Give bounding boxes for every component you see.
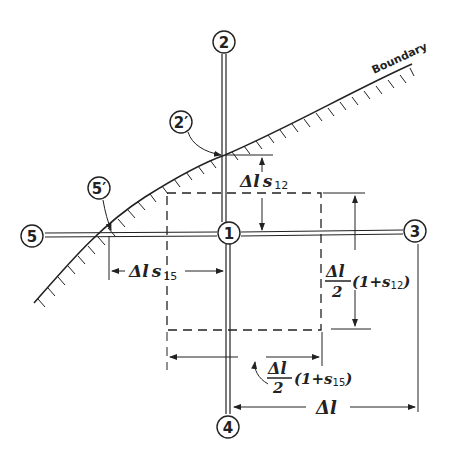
svg-text:Δl: Δl bbox=[325, 262, 345, 281]
link-1-3 bbox=[241, 230, 403, 236]
svg-text:5′: 5′ bbox=[92, 180, 106, 198]
svg-text:2: 2 bbox=[219, 34, 229, 52]
boundary-label: Boundary bbox=[370, 40, 429, 77]
svg-text:3: 3 bbox=[410, 223, 420, 241]
label-dl-s15: Δls15 bbox=[128, 261, 177, 283]
node-1: 1 bbox=[218, 222, 240, 244]
node-4: 4 bbox=[217, 416, 239, 438]
node-5-prime: 5′ bbox=[88, 177, 110, 199]
node-2: 2 bbox=[213, 31, 235, 53]
label-dl: Δl bbox=[315, 397, 337, 418]
node-3: 3 bbox=[404, 220, 426, 242]
svg-text:Δl: Δl bbox=[267, 359, 287, 378]
grid-diagram: Boundary Δls12 Δl 2 (1+s12) bbox=[0, 0, 450, 455]
pointer-2prime bbox=[188, 132, 221, 155]
label-dl-s12: Δls12 bbox=[239, 171, 288, 192]
link-1-4 bbox=[226, 244, 230, 414]
link-2-1 bbox=[222, 54, 226, 222]
svg-text:(1+s12): (1+s12) bbox=[352, 273, 410, 291]
svg-text:5: 5 bbox=[27, 228, 37, 246]
svg-text:1: 1 bbox=[224, 225, 234, 243]
svg-text:(1+s15): (1+s15) bbox=[294, 370, 352, 388]
node-2-prime: 2′ bbox=[170, 111, 192, 133]
svg-text:2: 2 bbox=[272, 379, 283, 397]
label-half-dl-s15: Δl 2 (1+s15) bbox=[267, 359, 352, 397]
label-half-dl-s12: Δl 2 (1+s12) bbox=[325, 262, 410, 301]
svg-text:2′: 2′ bbox=[174, 114, 188, 132]
control-volume-box bbox=[167, 193, 321, 330]
node-5: 5 bbox=[21, 225, 43, 247]
svg-text:2: 2 bbox=[331, 283, 342, 301]
dim-half-dl-s12 bbox=[323, 193, 371, 329]
svg-text:4: 4 bbox=[223, 419, 233, 437]
link-5-1 bbox=[45, 232, 217, 237]
